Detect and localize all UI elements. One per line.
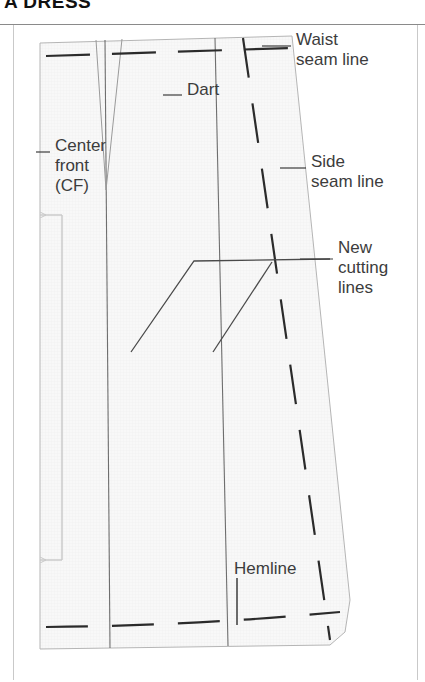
label-hemline: Hemline [234,559,296,579]
label-waist-seam-line: Waist seam line [296,30,369,70]
label-center-front: Center front (CF) [55,136,106,196]
pattern-piece-body [40,36,350,649]
label-side-seam-line: Side seam line [311,152,384,192]
label-dart: Dart [187,80,219,100]
skirt-pattern-drawing [0,0,425,682]
label-new-cutting-lines: New cutting lines [338,238,388,298]
diagram-page: A DRESS [0,0,425,682]
